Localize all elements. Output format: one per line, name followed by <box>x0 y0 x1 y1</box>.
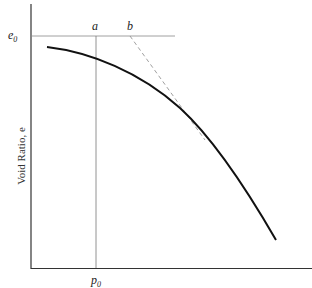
y-axis-label: Void Ratio, e <box>15 111 27 201</box>
p0-label: p0 <box>91 274 101 288</box>
diagram: e0 a b p0 Void Ratio, e <box>0 0 312 288</box>
tangent-line <box>130 36 205 140</box>
b-label: b <box>127 20 133 32</box>
a-label: a <box>92 20 98 32</box>
diagram-canvas <box>0 0 312 288</box>
e0-label: e0 <box>8 29 17 44</box>
compression-curve <box>47 47 276 240</box>
